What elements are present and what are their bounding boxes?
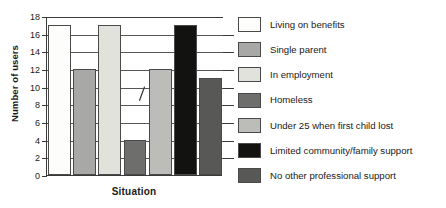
legend-swatch-icon (238, 168, 261, 183)
y-axis-tick (42, 70, 47, 71)
bar-single-parent (73, 69, 96, 175)
y-axis-tick-label: 10 (18, 83, 40, 93)
legend-item: Living on benefits (238, 12, 444, 37)
legend-item-label: Homeless (270, 95, 313, 105)
legend-item-label: In employment (270, 70, 333, 80)
legend-item: In employment (238, 62, 444, 87)
legend-swatch-icon (238, 118, 261, 133)
legend-item: No other professional support (238, 163, 444, 188)
legend-swatch-icon (238, 67, 261, 82)
legend-swatch-icon (238, 93, 261, 108)
legend-swatch-icon (238, 42, 261, 57)
bar-homeless (124, 140, 147, 175)
legend-item: Limited community/family support (238, 138, 444, 163)
y-axis-right-tick (223, 158, 234, 159)
legend-item: Under 25 when first child lost (238, 113, 444, 138)
y-axis-right-tick (223, 52, 234, 53)
y-axis-tick (42, 17, 47, 18)
y-axis-tick-label: 2 (18, 153, 40, 163)
y-axis-right-tick (223, 123, 234, 124)
y-axis-tick-label: 14 (18, 47, 40, 57)
legend-swatch-icon (238, 17, 261, 32)
legend-swatch-icon (238, 143, 261, 158)
chart-legend: Living on benefitsSingle parentIn employ… (238, 12, 444, 188)
y-axis-tick-label: 12 (18, 65, 40, 75)
bar-chart-figure: Number of users 024681012141618 Situatio… (0, 0, 446, 208)
legend-item: Homeless (238, 88, 444, 113)
y-axis-tick (42, 123, 47, 124)
legend-item-label: No other professional support (270, 171, 396, 181)
bar-under-25-when-first-child-lost (149, 69, 172, 175)
bar-in-employment (98, 25, 121, 175)
y-axis-tick (42, 35, 47, 36)
y-axis-right-tick (223, 70, 234, 71)
y-axis-tick (42, 52, 47, 53)
y-axis-right-tick (223, 141, 234, 142)
x-axis-title: Situation (46, 186, 222, 197)
y-axis-tick-label: 8 (18, 100, 40, 110)
y-axis-tick (42, 176, 47, 177)
y-axis-tick (42, 158, 47, 159)
legend-item-label: Single parent (270, 45, 327, 55)
y-axis-tick-label: 6 (18, 118, 40, 128)
gridline (47, 17, 223, 18)
legend-item-label: Limited community/family support (270, 146, 412, 156)
plot-area: 024681012141618 (46, 17, 222, 176)
y-axis-tick-label: 4 (18, 136, 40, 146)
y-axis-tick (42, 105, 47, 106)
bar-living-on-benefits (48, 25, 71, 175)
y-axis-tick-label: 0 (18, 171, 40, 181)
bar-limited-community-family-support (174, 25, 197, 175)
y-axis-right-tick (223, 35, 234, 36)
y-axis-tick-label: 18 (18, 12, 40, 22)
y-axis-tick (42, 88, 47, 89)
y-axis-tick-label: 16 (18, 30, 40, 40)
legend-item-label: Living on benefits (270, 20, 345, 30)
legend-item: Single parent (238, 37, 444, 62)
y-axis-right-tick (223, 105, 234, 106)
y-axis-tick (42, 141, 47, 142)
y-axis-right-tick (223, 88, 234, 89)
bar-no-other-professional-support (199, 78, 222, 175)
legend-item-label: Under 25 when first child lost (270, 121, 393, 131)
